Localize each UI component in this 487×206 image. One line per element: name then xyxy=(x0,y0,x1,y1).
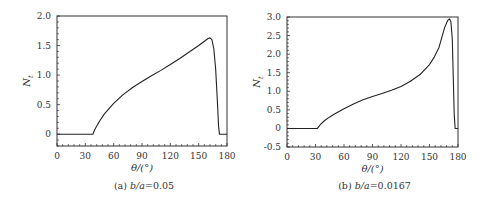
x-axis-label: θ/(°) xyxy=(131,162,153,173)
y-tick-label: 0 xyxy=(45,129,51,139)
data-line xyxy=(57,38,227,134)
y-tick-label: 0 xyxy=(275,123,281,133)
data-line xyxy=(287,19,458,129)
y-tick-label: 1.5 xyxy=(267,68,282,78)
y-tick-label: 2.5 xyxy=(267,31,282,41)
y-axis-label: Nt xyxy=(251,76,265,89)
x-tick-label: 180 xyxy=(218,151,235,161)
x-tick-label: 120 xyxy=(162,151,179,161)
x-tick-label: 0 xyxy=(54,151,60,161)
y-tick-label: 0.5 xyxy=(267,105,282,115)
figure-caption: (a) b/a=0.05 xyxy=(114,180,174,191)
x-tick-label: 30 xyxy=(310,152,322,162)
y-tick-label: 3.0 xyxy=(267,12,282,22)
x-tick-label: 60 xyxy=(108,151,120,161)
y-tick-label: 2.0 xyxy=(37,11,52,21)
y-tick-label: -0.5 xyxy=(264,142,282,152)
x-tick-label: 90 xyxy=(136,151,148,161)
y-tick-label: 0.5 xyxy=(37,100,52,110)
x-axis-label: θ/(°) xyxy=(361,163,383,174)
y-tick-label: 2.0 xyxy=(267,49,282,59)
x-tick-label: 150 xyxy=(421,152,438,162)
plot-frame xyxy=(287,17,458,147)
x-tick-label: 30 xyxy=(80,151,92,161)
chart-panel-a: 030609012015018000.51.01.52.0θ/(°)Nt(a) … xyxy=(21,11,236,191)
x-tick-label: 120 xyxy=(392,152,409,162)
y-tick-label: 1.0 xyxy=(267,86,282,96)
figure: 030609012015018000.51.01.52.0θ/(°)Nt(a) … xyxy=(0,0,487,206)
x-tick-label: 0 xyxy=(284,152,290,162)
chart-panel-b: 0306090120150180-0.500.51.01.52.02.53.0θ… xyxy=(251,12,467,191)
y-tick-label: 1.0 xyxy=(37,70,52,80)
x-tick-label: 150 xyxy=(190,151,207,161)
x-tick-label: 180 xyxy=(449,152,466,162)
x-tick-label: 60 xyxy=(338,152,350,162)
y-axis-label: Nt xyxy=(21,75,35,88)
y-tick-label: 1.5 xyxy=(37,41,52,51)
figure-caption: (b) b/a=0.0167 xyxy=(338,180,411,191)
x-tick-label: 90 xyxy=(367,152,379,162)
